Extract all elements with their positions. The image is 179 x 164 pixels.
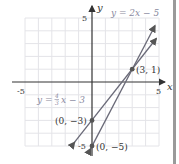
equation-label-4-3x-3: y = 4 3 x − 3 bbox=[36, 92, 85, 106]
point-label-3-1: (3, 1) bbox=[136, 65, 160, 75]
y-axis-label: y bbox=[96, 2, 103, 13]
point-label-0-neg5: (0, −5) bbox=[96, 142, 128, 152]
point-label-0-neg3: (0, −3) bbox=[55, 116, 87, 126]
svg-text:3: 3 bbox=[55, 99, 59, 106]
y-tick-5: 5 bbox=[82, 14, 87, 23]
x-tick-neg5: -5 bbox=[17, 87, 25, 96]
graph-canvas: y x 5 -5 5 -5 y = 2x − 5 y = 4 3 x − 3 (… bbox=[0, 0, 179, 164]
point-0-neg5 bbox=[90, 144, 95, 149]
point-0-neg3 bbox=[90, 118, 95, 123]
line-y-4-3x-3 bbox=[75, 39, 157, 143]
svg-text:y =: y = bbox=[36, 95, 53, 105]
frame-border bbox=[173, 0, 176, 164]
svg-text:4: 4 bbox=[54, 92, 59, 99]
equation-label-2x-5: y = 2x − 5 bbox=[110, 8, 159, 18]
svg-text:x − 3: x − 3 bbox=[61, 95, 85, 105]
y-tick-neg5: -5 bbox=[78, 142, 86, 151]
point-3-1 bbox=[130, 67, 135, 72]
x-tick-5: 5 bbox=[156, 87, 161, 96]
